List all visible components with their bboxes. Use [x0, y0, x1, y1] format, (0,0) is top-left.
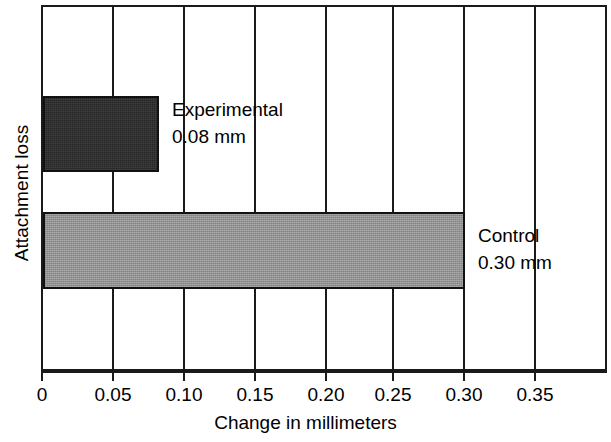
x-tick-mark-0.35: [534, 371, 536, 381]
x-tick-label-0.15: 0.15: [215, 384, 295, 406]
y-axis-title: Attachment loss: [11, 93, 33, 293]
gridline-0.05: [112, 7, 114, 369]
x-tick-mark-0.30: [463, 371, 465, 381]
plot-area: [41, 5, 607, 371]
bar-chart-figure: Attachment loss Experimental 0.08 mm Con…: [0, 0, 611, 442]
bar-label-control: Control 0.30 mm: [478, 222, 552, 276]
bar-experimental: [43, 96, 159, 172]
x-tick-label-0.30: 0.30: [424, 384, 504, 406]
x-tick-label-0: 0: [2, 384, 82, 406]
x-tick-mark-0.05: [112, 371, 114, 381]
gridline-0.10: [183, 7, 185, 369]
bar-control: [43, 212, 465, 289]
x-tick-mark-0.20: [325, 371, 327, 381]
x-tick-mark-0.10: [183, 371, 185, 381]
gridline-0.15: [254, 7, 256, 369]
bar-label-experimental-name: Experimental: [172, 96, 283, 123]
x-axis-line: [41, 371, 607, 373]
bar-label-experimental-value: 0.08 mm: [172, 123, 283, 150]
bar-label-control-value: 0.30 mm: [478, 249, 552, 276]
bar-label-experimental: Experimental 0.08 mm: [172, 96, 283, 150]
x-tick-mark-0: [41, 371, 43, 381]
gridline-0.20: [325, 7, 327, 369]
gridline-0.25: [392, 7, 394, 369]
x-tick-mark-0.15: [254, 371, 256, 381]
x-tick-label-0.05: 0.05: [73, 384, 153, 406]
x-tick-mark-0.25: [392, 371, 394, 381]
x-tick-label-0.35: 0.35: [495, 384, 575, 406]
x-axis-title: Change in millimeters: [0, 412, 611, 434]
bar-label-control-name: Control: [478, 222, 552, 249]
x-tick-label-0.25: 0.25: [353, 384, 433, 406]
gridline-0.35: [534, 7, 536, 369]
x-tick-label-0.10: 0.10: [144, 384, 224, 406]
gridline-0.30: [463, 7, 465, 369]
